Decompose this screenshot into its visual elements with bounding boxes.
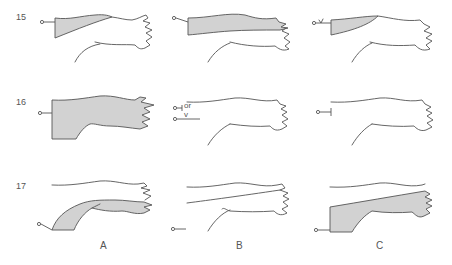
column-label-A: A	[100, 240, 107, 251]
column-label-C: C	[376, 240, 383, 251]
column-label-B: B	[236, 240, 243, 251]
panel-16C	[316, 98, 433, 145]
row-label-16: 16	[16, 97, 26, 107]
row-label-15: 15	[16, 12, 26, 22]
panel-17C	[314, 183, 432, 232]
panel-17B	[171, 183, 289, 231]
panel-17A	[37, 181, 152, 230]
annotation-v-16b: v	[184, 110, 188, 119]
panel-15C	[312, 16, 432, 62]
panel-15A	[40, 15, 152, 62]
row-label-17: 17	[16, 181, 26, 191]
panel-16A	[38, 96, 154, 139]
panel-15B	[172, 14, 290, 62]
arm-diagram-figure: 15 16 17 or v A B C	[0, 0, 452, 265]
arm-diagram-svg	[0, 0, 452, 265]
annotation-or: or	[184, 101, 191, 110]
